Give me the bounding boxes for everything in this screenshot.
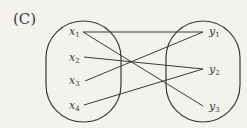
mapping-diagram: (C) x1 x2 x3 x4 y1 y2 y3: [0, 0, 247, 128]
domain-element: x1: [69, 25, 80, 39]
mapping-edge-x3-y1: [85, 32, 203, 81]
mapping-edge-x2-y2: [84, 57, 203, 69]
codomain-elements: y1 y2 y3: [208, 25, 220, 114]
mapping-edges: [83, 32, 203, 106]
mapping-edge-x1-y3: [83, 32, 203, 106]
codomain-set-oval: [166, 21, 240, 122]
domain-element: x3: [69, 74, 80, 88]
domain-elements: x1 x2 x3 x4: [69, 25, 80, 113]
panel-label: (C): [13, 10, 36, 28]
codomain-element: y3: [208, 100, 220, 114]
domain-set-oval: [46, 21, 121, 122]
domain-element: x2: [69, 51, 80, 65]
codomain-element: y2: [208, 63, 220, 77]
codomain-element: y1: [208, 25, 220, 39]
domain-element: x4: [69, 99, 80, 113]
